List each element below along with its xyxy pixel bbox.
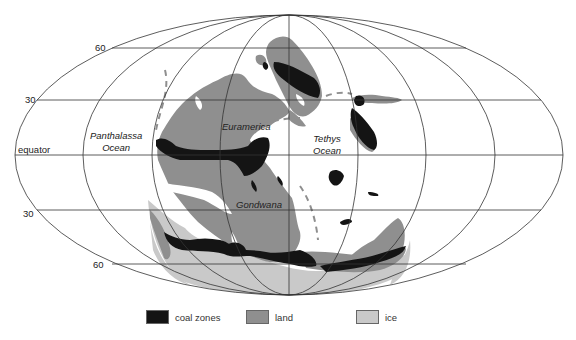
- graticule: [15, 15, 563, 295]
- legend-item-land: land: [246, 310, 293, 324]
- label-lat-60n: 60: [95, 43, 106, 53]
- coal-swatch: [146, 310, 169, 324]
- land-swatch: [246, 310, 269, 324]
- label-equator: equator: [18, 145, 50, 155]
- tethys-line2: Ocean: [313, 145, 341, 157]
- label-gondwana: Gondwana: [236, 200, 282, 210]
- label-panthalassa-ocean: Panthalassa Ocean: [90, 130, 142, 154]
- world-map: [0, 0, 576, 310]
- label-tethys-ocean: Tethys Ocean: [313, 133, 341, 157]
- ice-swatch: [356, 310, 379, 324]
- panthalassa-line2: Ocean: [90, 142, 142, 154]
- label-lat-60s: 60: [93, 260, 104, 270]
- label-lat-30n: 30: [25, 95, 36, 105]
- tethys-line1: Tethys: [313, 133, 341, 145]
- legend-label-ice: ice: [385, 312, 397, 323]
- label-euramerica: Euramerica: [222, 122, 271, 132]
- legend-item-ice: ice: [356, 310, 397, 324]
- legend-label-coal: coal zones: [175, 312, 220, 323]
- legend-label-land: land: [275, 312, 293, 323]
- legend-item-coal-zones: coal zones: [146, 310, 220, 324]
- label-lat-30s: 30: [23, 209, 34, 219]
- panthalassa-line1: Panthalassa: [90, 130, 142, 142]
